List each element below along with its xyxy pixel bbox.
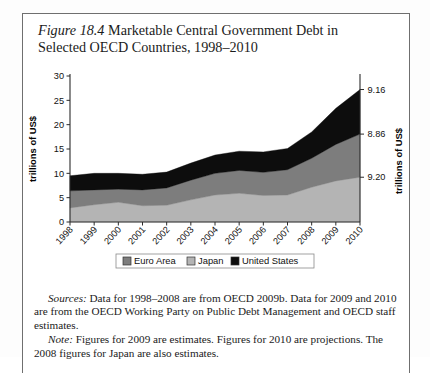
y-axis-right: 9.168.869.20	[360, 74, 385, 222]
x-axis-tick-label: 2009	[320, 225, 341, 247]
legend-swatch	[123, 257, 131, 265]
figure-footnotes: Sources: Data for 1998–2008 are from OEC…	[34, 292, 402, 361]
y-axis-tick-label: 10	[54, 169, 64, 179]
stacked-area-chart: 051015202530trillions of US$199819992000…	[22, 68, 410, 288]
y-axis-tick-label: 20	[54, 120, 64, 130]
legend-label: Euro Area	[134, 255, 176, 266]
y-axis-title: trillions of US$	[27, 115, 38, 182]
legend-swatch	[187, 257, 195, 265]
legend-label: United States	[242, 255, 299, 266]
chart-legend: Euro AreaJapanUnited States	[116, 254, 314, 268]
x-axis: 1998199920002001200220032004200520062007…	[54, 222, 365, 246]
legend-swatch	[231, 257, 239, 265]
x-axis-tick-label: 2001	[126, 225, 147, 247]
sources-note: Sources: Data for 1998–2008 are from OEC…	[34, 292, 402, 332]
y-axis-tick-label: 25	[54, 96, 64, 106]
note-label: Note:	[48, 333, 73, 345]
x-axis-tick-label: 1999	[78, 225, 99, 247]
right-axis-value-label: 9.16	[368, 85, 386, 95]
y-axis-left: 051015202530	[54, 71, 70, 227]
x-axis-tick-label: 2005	[223, 225, 244, 247]
sources-text: Data for 1998–2008 are from OECD 2009b. …	[34, 292, 397, 331]
legend-label: Japan	[198, 255, 224, 266]
x-axis-tick-label: 2007	[271, 225, 292, 247]
figure-caption: Figure 18.4 Marketable Central Governmen…	[38, 22, 378, 55]
x-axis-tick-label: 2000	[102, 225, 123, 247]
figure-number: Figure 18.4	[38, 22, 104, 38]
y-axis-tick-label: 15	[54, 144, 64, 154]
y-axis-tick-label: 30	[54, 71, 64, 81]
note-text: Figures for 2009 are estimates. Figures …	[34, 333, 383, 358]
y-axis-tick-label: 0	[59, 217, 64, 227]
y-axis-tick-label: 5	[59, 193, 64, 203]
x-axis-tick-label: 2010	[344, 225, 365, 247]
x-axis-tick-label: 2003	[175, 225, 196, 247]
right-axis-value-label: 8.86	[368, 129, 386, 139]
sources-label: Sources:	[48, 292, 87, 304]
x-axis-tick-label: 2008	[295, 225, 316, 247]
chart-container: 051015202530trillions of US$199819992000…	[22, 68, 410, 288]
right-axis-value-label: 9.20	[368, 172, 386, 182]
x-axis-tick-label: 2002	[150, 225, 171, 247]
x-axis-tick-label: 2006	[247, 225, 268, 247]
x-axis-tick-label: 1998	[54, 225, 75, 247]
x-axis-tick-label: 2004	[199, 225, 220, 247]
note-note: Note: Figures for 2009 are estimates. Fi…	[34, 333, 402, 360]
right-axis-title: trillions of US$	[393, 127, 404, 194]
